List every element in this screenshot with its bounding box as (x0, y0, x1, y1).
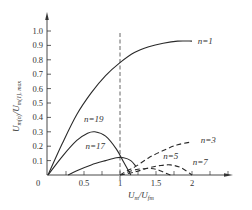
y-tick-label: 0.2 (32, 141, 43, 151)
x-tick-label: 0.5 (79, 178, 90, 188)
y-tick-label: 0.4 (32, 112, 43, 122)
y-tick-label: 0.1 (32, 156, 43, 166)
curve-label-n-3: n=3 (201, 135, 217, 145)
x-tick-label: 2 (190, 178, 194, 188)
y-axis-title: Um(n)/Um(1), max (11, 80, 23, 132)
y-tick-label: 1.0 (32, 26, 43, 36)
y-tick-label: 0.6 (32, 84, 43, 94)
y-tick-label: 0.5 (32, 98, 43, 108)
y-axis-arrow-icon (45, 12, 49, 20)
curve-labels: n=1n=19n=17n=3n=5n=7 (84, 36, 216, 167)
x-ticks: 0.511.52 (66, 171, 228, 188)
y-axis: 0.10.20.30.40.50.60.70.80.91.0 (32, 12, 51, 175)
series-n-7 (127, 169, 170, 175)
origin-label: 0 (36, 178, 40, 188)
harmonic-amplitude-chart: 0.10.20.30.40.50.60.70.80.91.0 0.511.52 … (0, 0, 252, 210)
curve-label-n-17: n=17 (85, 141, 105, 151)
curve-label-n-19: n=19 (84, 114, 104, 124)
x-axis: 0.511.52 (47, 171, 233, 188)
curve-label-n-5: n=5 (163, 151, 179, 161)
x-axis-arrow-icon (224, 173, 233, 177)
curve-label-n-7: n=7 (193, 157, 209, 167)
y-tick-label: 0.3 (32, 127, 43, 137)
curve-label-n-1: n=1 (198, 36, 213, 46)
y-tick-label: 0.7 (32, 69, 43, 79)
x-tick-label: 1.5 (151, 178, 162, 188)
y-tick-label: 0.8 (32, 55, 43, 65)
y-ticks: 0.10.20.30.40.50.60.70.80.91.0 (32, 26, 51, 166)
series-n-3 (120, 142, 192, 175)
series-n-19 (48, 132, 131, 175)
x-axis-title: Um/Ufm (128, 190, 155, 201)
y-tick-label: 0.9 (32, 40, 43, 50)
